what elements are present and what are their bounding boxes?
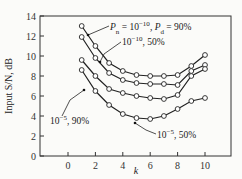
y-tick-label: 12 [26,31,36,42]
data-point-marker [79,58,84,63]
data-point-marker [162,97,167,102]
data-point-marker [120,91,125,96]
chart: 02468101214 0246810 Pn = 10−10, Pd = 90%… [0,0,242,179]
data-point-marker [134,116,139,121]
data-point-marker [134,94,139,99]
data-point-marker [79,68,84,73]
data-point-marker [162,74,167,79]
y-axis-label: Input S/N, dB [3,58,14,114]
data-point-marker [203,53,208,58]
data-point-marker [107,61,112,66]
data-point-marker [107,103,112,108]
x-tick-label: 0 [66,160,71,171]
data-point-marker [175,107,180,112]
data-point-marker [189,69,194,74]
data-point-marker [79,35,84,40]
data-point-marker [175,73,180,78]
data-point-marker [189,64,194,69]
data-point-marker [107,87,112,92]
data-point-marker [148,74,153,79]
data-point-marker [148,82,153,87]
x-axis-label: k [134,165,139,176]
data-point-marker [148,96,153,101]
y-tick-label: 14 [26,11,36,22]
y-tick-label: 2 [31,131,36,142]
series-annotation: 10−5, 90% [50,114,89,126]
data-point-marker [134,73,139,78]
x-tick-label: 8 [175,160,180,171]
series-annotation: 10−5, 50% [157,128,196,140]
data-point-marker [148,117,153,122]
series-annotation: Pn = 10−10, Pd = 90% [109,20,192,36]
data-point-marker [175,93,180,98]
data-point-marker [162,114,167,119]
y-tick-label: 10 [26,51,36,62]
x-tick-label: 2 [93,160,98,171]
data-point-marker [134,81,139,86]
data-point-marker [93,56,98,61]
data-point-marker [189,74,194,79]
series-annotation: 10−10, 50% [122,35,165,47]
y-tick-label: 6 [31,91,36,102]
data-point-marker [120,112,125,117]
data-point-marker [107,71,112,76]
y-tick-label: 8 [31,71,36,82]
data-point-marker [203,96,208,101]
data-point-marker [93,44,98,49]
data-point-marker [189,99,194,104]
y-axis-ticks: 02468101214 [26,11,44,162]
data-point-marker [120,78,125,83]
y-tick-label: 0 [31,151,36,162]
data-point-marker [175,83,180,88]
data-point-marker [203,67,208,72]
y-tick-label: 4 [31,111,36,122]
data-point-marker [93,89,98,94]
data-point-marker [93,74,98,79]
data-point-marker [79,24,84,29]
data-point-marker [162,82,167,87]
data-point-marker [120,69,125,74]
x-tick-label: 10 [200,160,210,171]
x-tick-label: 6 [148,160,153,171]
x-tick-label: 4 [120,160,125,171]
